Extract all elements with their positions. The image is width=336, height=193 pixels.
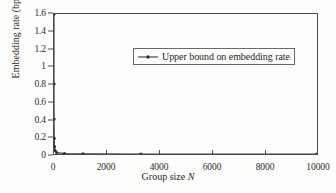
data-point-marker [54,145,56,148]
data-point-marker [54,117,56,120]
legend-entry-label: Upper bound on embedding rate [162,51,290,62]
plot-svg [54,14,317,154]
data-point-marker [139,152,142,154]
x-tick-mark [212,150,213,155]
y-tick-label: 1.2 [34,44,46,54]
x-tick-mark [265,150,266,155]
y-tick-label: 0.4 [34,115,46,125]
y-tick-label: 0.8 [34,79,46,89]
x-tick-mark [106,150,107,155]
y-axis-title: Embedding rate (bpp) [10,0,21,106]
legend-line-dot-icon [137,52,159,62]
data-point-marker [54,137,56,140]
data-series-markers [54,14,317,154]
data-point-marker [81,152,84,154]
chart-figure: 00.20.40.60.811.21.41.6 0200040006000800… [0,0,336,193]
y-tick-label: 0.2 [34,132,46,142]
x-tick-mark [159,150,160,155]
y-tick-label: 0.6 [34,97,46,107]
chart-legend: Upper bound on embedding rate [133,48,295,65]
x-axis-title: Group size N [0,171,336,182]
y-tick-label: 1.6 [34,8,46,18]
data-point-marker [315,152,317,154]
data-point-marker [63,152,66,154]
x-axis-title-symbol: N [188,171,195,182]
plot-area [53,13,318,155]
y-tick-label: 1.4 [34,26,46,36]
data-series-line [54,14,317,154]
x-axis-title-text: Group size [142,171,188,182]
data-point-marker [54,82,56,85]
data-point-marker [54,14,56,16]
y-tick-label: 1 [41,61,46,71]
